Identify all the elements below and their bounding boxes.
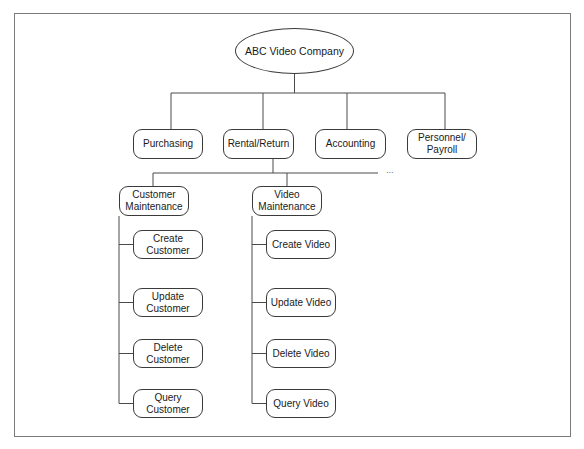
node-query-customer: Query Customer	[133, 389, 203, 418]
node-accounting: Accounting	[315, 129, 386, 159]
node-purchasing: Purchasing	[133, 129, 203, 159]
node-video-maintenance: Video Maintenance	[252, 186, 322, 216]
node-rental-return: Rental/Return	[223, 129, 294, 159]
continuation-ellipsis: ...	[386, 165, 394, 175]
node-query-video: Query Video	[266, 389, 336, 418]
node-customer-maintenance: Customer Maintenance	[119, 186, 189, 216]
node-create-video: Create Video	[266, 230, 336, 259]
node-update-video: Update Video	[266, 288, 336, 317]
node-delete-video: Delete Video	[266, 339, 336, 368]
node-personnel-payroll: Personnel/ Payroll	[407, 129, 477, 159]
node-update-customer: Update Customer	[133, 288, 203, 317]
root-node-abc-video-company: ABC Video Company	[235, 28, 354, 74]
node-delete-customer: Delete Customer	[133, 339, 203, 368]
node-create-customer: Create Customer	[133, 230, 203, 259]
